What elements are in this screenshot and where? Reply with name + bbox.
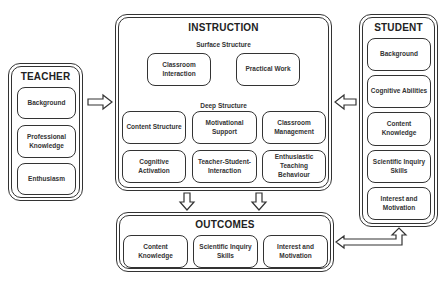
- arrow-teacher-to-instruction-icon: [88, 95, 112, 109]
- arrow-student-to-instruction-icon: [335, 95, 356, 109]
- arrow-instruction-to-outcomes-right-icon: [252, 193, 266, 210]
- connector-arrows: [0, 0, 448, 285]
- arrow-instruction-to-outcomes-left-icon: [180, 193, 194, 210]
- arrow-outcomes-student-bidirectional-icon: [336, 228, 406, 248]
